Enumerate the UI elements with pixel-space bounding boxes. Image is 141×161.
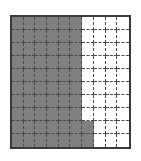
grid-cell-r3-c4 — [47, 43, 59, 56]
grid-cell-r8-c1 — [12, 108, 24, 121]
grid-cell-r7-c5 — [59, 95, 71, 108]
grid-cell-r5-c8 — [94, 69, 106, 82]
grid-cell-r9-c3 — [35, 121, 47, 134]
grid-cell-r5-c9 — [106, 69, 118, 82]
grid-cell-r7-c2 — [24, 95, 36, 108]
grid-cell-r1-c4 — [47, 17, 59, 30]
grid-cell-r7-c6 — [70, 95, 82, 108]
grid-cell-r2-c9 — [106, 30, 118, 43]
grid-cell-r5-c6 — [70, 69, 82, 82]
grid-cell-r7-c7 — [82, 95, 94, 108]
grid-cell-r2-c2 — [24, 30, 36, 43]
grid-cell-r6-c3 — [35, 82, 47, 95]
grid-cell-r7-c4 — [47, 95, 59, 108]
grid-cell-r5-c2 — [24, 69, 36, 82]
grid-cell-r1-c8 — [94, 17, 106, 30]
grid-cell-r5-c3 — [35, 69, 47, 82]
grid-cell-r10-c7 — [82, 134, 94, 147]
grid-cell-r5-c10 — [117, 69, 129, 82]
grid-cell-r3-c1 — [12, 43, 24, 56]
grid-cell-r8-c4 — [47, 108, 59, 121]
grid-cell-r6-c1 — [12, 82, 24, 95]
grid-cell-r10-c6 — [70, 134, 82, 147]
grid-cell-r4-c2 — [24, 56, 36, 69]
grid-cell-r8-c6 — [70, 108, 82, 121]
grid-cell-r10-c9 — [106, 134, 118, 147]
grid-cell-r9-c2 — [24, 121, 36, 134]
grid-cell-r7-c10 — [117, 95, 129, 108]
grid-cell-r9-c5 — [59, 121, 71, 134]
grid-cell-r1-c9 — [106, 17, 118, 30]
grid-cell-r7-c3 — [35, 95, 47, 108]
grid-cell-r10-c3 — [35, 134, 47, 147]
grid-cell-r7-c9 — [106, 95, 118, 108]
grid-cell-r10-c2 — [24, 134, 36, 147]
grid-cell-r6-c5 — [59, 82, 71, 95]
grid-cell-r8-c2 — [24, 108, 36, 121]
grid-cell-r4-c4 — [47, 56, 59, 69]
grid-cell-r6-c9 — [106, 82, 118, 95]
grid-cell-r10-c1 — [12, 134, 24, 147]
grid-cell-r9-c6 — [70, 121, 82, 134]
grid-cell-r2-c4 — [47, 30, 59, 43]
grid-cell-r6-c6 — [70, 82, 82, 95]
grid-cell-r6-c4 — [47, 82, 59, 95]
grid-cell-r9-c7 — [82, 121, 94, 134]
grid-cell-r3-c10 — [117, 43, 129, 56]
grid-cell-r5-c7 — [82, 69, 94, 82]
grid-cell-r10-c8 — [94, 134, 106, 147]
grid-cell-r3-c6 — [70, 43, 82, 56]
grid-cell-r1-c5 — [59, 17, 71, 30]
grid-cell-r8-c9 — [106, 108, 118, 121]
grid-cell-r1-c1 — [12, 17, 24, 30]
grid-cell-r9-c8 — [94, 121, 106, 134]
grid-cell-r2-c10 — [117, 30, 129, 43]
grid-cell-r2-c7 — [82, 30, 94, 43]
grid-cell-r8-c3 — [35, 108, 47, 121]
grid-cell-r6-c2 — [24, 82, 36, 95]
grid-cell-r4-c6 — [70, 56, 82, 69]
grid-cell-r10-c5 — [59, 134, 71, 147]
grid-cell-r5-c5 — [59, 69, 71, 82]
grid-cell-r1-c3 — [35, 17, 47, 30]
grid-cell-r9-c10 — [117, 121, 129, 134]
grid-cell-r3-c5 — [59, 43, 71, 56]
grid-cell-r10-c10 — [117, 134, 129, 147]
figure-canvas — [0, 0, 141, 161]
grid-cell-r3-c9 — [106, 43, 118, 56]
grid-cell-r4-c1 — [12, 56, 24, 69]
grid-cell-r4-c5 — [59, 56, 71, 69]
grid-cell-r2-c3 — [35, 30, 47, 43]
grid-cell-r8-c8 — [94, 108, 106, 121]
grid-cell-r1-c10 — [117, 17, 129, 30]
grid-cell-r4-c8 — [94, 56, 106, 69]
grid-cell-r5-c4 — [47, 69, 59, 82]
grid-cell-r9-c9 — [106, 121, 118, 134]
grid-cell-r3-c7 — [82, 43, 94, 56]
grid-cell-r1-c6 — [70, 17, 82, 30]
grid-cell-r3-c2 — [24, 43, 36, 56]
grid-cell-r9-c1 — [12, 121, 24, 134]
grid-cell-r4-c3 — [35, 56, 47, 69]
grid-cell-r9-c4 — [47, 121, 59, 134]
grid-area-model — [10, 15, 131, 149]
grid-cell-r4-c9 — [106, 56, 118, 69]
grid-cell-r2-c1 — [12, 30, 24, 43]
grid-cell-r6-c7 — [82, 82, 94, 95]
grid-cell-r4-c7 — [82, 56, 94, 69]
grid-cell-r8-c7 — [82, 108, 94, 121]
grid-cell-r2-c6 — [70, 30, 82, 43]
grid-cell-r2-c5 — [59, 30, 71, 43]
grid-cell-r1-c2 — [24, 17, 36, 30]
grid-cells-container — [12, 17, 129, 147]
grid-cell-r7-c1 — [12, 95, 24, 108]
grid-cell-r1-c7 — [82, 17, 94, 30]
grid-cell-r10-c4 — [47, 134, 59, 147]
grid-cell-r4-c10 — [117, 56, 129, 69]
grid-cell-r6-c8 — [94, 82, 106, 95]
grid-cell-r8-c10 — [117, 108, 129, 121]
grid-cell-r6-c10 — [117, 82, 129, 95]
grid-cell-r3-c8 — [94, 43, 106, 56]
grid-cell-r8-c5 — [59, 108, 71, 121]
grid-cell-r5-c1 — [12, 69, 24, 82]
